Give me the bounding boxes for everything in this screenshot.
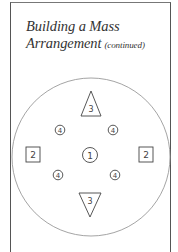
small-circle-element: 4 <box>55 125 65 135</box>
element-label: 4 <box>113 172 118 180</box>
square-element: 2 <box>139 147 153 162</box>
small-circle-element: 4 <box>53 170 63 180</box>
element-label: 3 <box>88 105 93 114</box>
element-label: 2 <box>30 150 36 160</box>
small-circle-element: 4 <box>108 125 118 135</box>
element-label: 3 <box>87 197 92 206</box>
small-circle-element: 4 <box>110 170 120 180</box>
element-label: 1 <box>87 151 93 161</box>
triangle-up-element: 3 <box>81 91 101 116</box>
element-label: 4 <box>56 172 61 180</box>
center-circle-element: 1 <box>83 148 98 163</box>
triangle-down-element: 3 <box>79 193 101 217</box>
square-element: 2 <box>26 147 40 162</box>
element-label: 2 <box>143 150 149 160</box>
element-label: 4 <box>58 127 63 135</box>
element-label: 4 <box>111 127 116 135</box>
